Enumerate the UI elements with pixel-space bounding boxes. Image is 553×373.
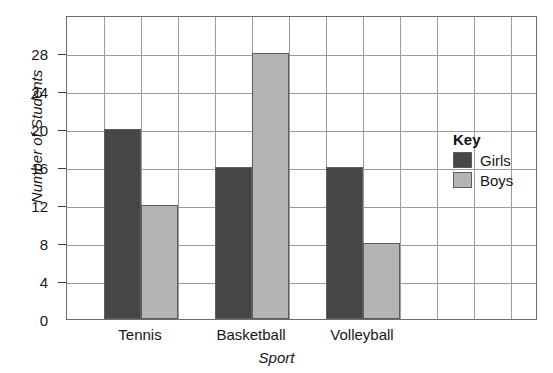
y-tick-label: 4 (22, 275, 48, 290)
chart-root: Number of Students 0481216202428 TennisB… (0, 0, 553, 373)
bar-basketball-boys (252, 53, 289, 319)
legend-entries: GirlsBoys (447, 152, 531, 188)
legend-label-boys: Boys (480, 173, 513, 188)
bar-tennis-girls (104, 129, 141, 319)
y-tick-label: 20 (22, 123, 48, 138)
bar-volleyball-girls (326, 167, 363, 319)
bar-tennis-boys (141, 205, 178, 319)
legend-swatch-boys (453, 172, 472, 188)
y-tick-label: 28 (22, 47, 48, 62)
y-tick-label: 0 (22, 313, 48, 328)
x-tick-label-basketball: Basketball (191, 326, 311, 343)
legend-entry-boys: Boys (453, 172, 531, 188)
legend-swatch-girls (453, 152, 472, 168)
bar-basketball-girls (215, 167, 252, 319)
y-tick-label: 8 (22, 237, 48, 252)
y-tick-label: 16 (22, 161, 48, 176)
x-axis-label: Sport (0, 349, 553, 366)
y-tick-label: 24 (22, 85, 48, 100)
chart-legend: Key GirlsBoys (447, 132, 531, 192)
legend-title: Key (453, 132, 531, 147)
x-tick-label-volleyball: Volleyball (302, 326, 422, 343)
legend-entry-girls: Girls (453, 152, 531, 168)
legend-label-girls: Girls (480, 153, 511, 168)
y-tick-label: 12 (22, 199, 48, 214)
bar-volleyball-boys (363, 243, 400, 319)
x-tick-label-tennis: Tennis (80, 326, 200, 343)
